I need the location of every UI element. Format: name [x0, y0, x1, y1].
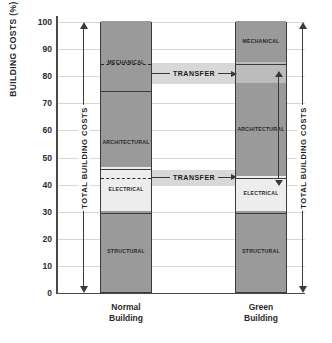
x-label-normal-line2: Building	[81, 313, 171, 324]
segment-normal-structural[interactable]: STRUCTURAL	[101, 211, 151, 292]
y-tick-80: 80	[43, 71, 52, 81]
segment-green-structural[interactable]: STRUCTURAL	[236, 211, 286, 292]
y-tick-50: 50	[43, 153, 52, 163]
rule-green-electrical-structural	[236, 213, 286, 214]
segment-label-normal-structural: STRUCTURAL	[107, 248, 145, 254]
segment-label-normal-electrical: ELECTRICAL	[108, 186, 143, 192]
bar-green-building[interactable]: MECHANICAL ARCHITECTURAL ELECTRICAL STRU…	[235, 22, 287, 293]
transfer-label-lower: TRANSFER	[170, 174, 218, 181]
plot-area: BUILDING COSTS (%) 100 90 80 70 60 50 40…	[57, 22, 305, 293]
transfer-line-right-lower	[218, 177, 231, 178]
transfer-arrow-lower-icon	[231, 174, 237, 180]
y-tick-70: 70	[43, 98, 52, 108]
y-tick-100: 100	[38, 17, 52, 27]
x-label-green-line1: Green	[216, 302, 306, 313]
arrow-head-down-icon	[275, 180, 283, 186]
y-axis-line	[56, 16, 58, 294]
y-axis-title: BUILDING COSTS (%)	[8, 0, 18, 114]
x-label-green-building: Green Building	[216, 302, 306, 324]
total-cost-label-left: TOTAL BUILDING COSTS	[78, 105, 89, 211]
x-label-normal-line1: Normal	[81, 302, 171, 313]
total-cost-dimension-right: TOTAL BUILDING COSTS	[297, 22, 308, 293]
segment-label-green-mechanical: MECHANICAL	[242, 38, 279, 44]
segment-green-mechanical[interactable]: MECHANICAL	[236, 21, 286, 62]
transfer-annotation-lower: TRANSFER	[152, 172, 237, 182]
x-label-normal-building: Normal Building	[81, 302, 171, 324]
transfer-annotation-upper: TRANSFER	[152, 69, 237, 79]
transfer-line-left-upper	[152, 73, 170, 74]
green-growth-arrow-down	[274, 71, 283, 186]
y-tick-40: 40	[43, 180, 52, 190]
y-tick-0: 0	[47, 288, 52, 298]
y-tick-60: 60	[43, 125, 52, 135]
y-tick-10: 10	[43, 261, 52, 271]
transfer-line-left-lower	[152, 177, 170, 178]
rule-green-mechanical-transferred	[236, 64, 286, 65]
x-axis-line	[56, 293, 305, 295]
segment-normal-electrical[interactable]: ELECTRICAL	[101, 167, 151, 210]
segment-label-green-structural: STRUCTURAL	[242, 248, 280, 254]
x-label-green-line2: Building	[216, 313, 306, 324]
total-cost-label-right: TOTAL BUILDING COSTS	[297, 105, 308, 211]
bar-normal-building[interactable]: MECHANICAL ARCHITECTURAL ELECTRICAL STRU…	[100, 22, 152, 293]
rule-normal-mechanical-architectural	[101, 91, 151, 92]
chart-container: BUILDING COSTS (%) 100 90 80 70 60 50 40…	[0, 0, 332, 343]
rule-normal-architectural-electrical	[101, 169, 151, 170]
y-tick-90: 90	[43, 44, 52, 54]
segment-label-green-electrical: ELECTRICAL	[243, 190, 278, 196]
transfer-label-upper: TRANSFER	[170, 70, 218, 77]
total-cost-dimension-left: TOTAL BUILDING COSTS	[78, 22, 89, 293]
rule-normal-electrical-structural	[101, 213, 151, 214]
segment-label-normal-architectural: ARCHITECTURAL	[102, 139, 149, 145]
dashed-marker-normal-43	[101, 178, 151, 179]
transfer-arrow-upper-icon	[231, 71, 237, 77]
transfer-line-right-upper	[218, 73, 231, 74]
y-tick-30: 30	[43, 207, 52, 217]
dashed-marker-normal-85	[101, 64, 151, 65]
y-tick-20: 20	[43, 234, 52, 244]
